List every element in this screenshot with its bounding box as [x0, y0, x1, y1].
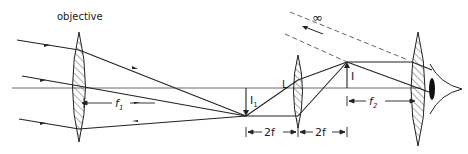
final-image-I-arrow — [344, 62, 350, 88]
intermediate-image-I1-arrow — [243, 88, 249, 116]
telescope-diagram: objective ∞ L I1 I f1 f2 2f 2f — [0, 0, 468, 154]
eyepiece-lens — [411, 32, 425, 146]
f2-label: f2 — [369, 95, 378, 110]
infinity-arrow — [302, 26, 323, 34]
f2-dimension — [347, 96, 415, 106]
two-f-dimensions — [246, 127, 347, 137]
two-f-left-label: 2f — [264, 126, 276, 139]
objective-label: objective — [57, 11, 103, 22]
I-label: I — [351, 70, 354, 83]
dashed-lines-to-infinity — [285, 12, 408, 62]
I1-label: I1 — [250, 94, 258, 109]
erecting-lens-L — [294, 55, 303, 128]
two-f-right-label: 2f — [315, 126, 327, 139]
ray-direction-arrows — [40, 44, 140, 125]
erecting-lens-label: L — [282, 79, 288, 90]
f1-label: f1 — [115, 97, 123, 112]
eye-icon — [429, 64, 462, 114]
infinity-label: ∞ — [312, 10, 323, 25]
